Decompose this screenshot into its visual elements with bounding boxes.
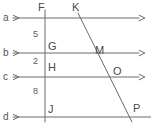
point-label-p: P	[133, 103, 140, 114]
measure-label-fg: 5	[33, 30, 38, 39]
point-label-m: M	[95, 45, 104, 56]
point-label-j: J	[48, 104, 54, 115]
diagram-canvas	[0, 0, 151, 129]
point-label-k: K	[72, 2, 79, 13]
geometry-diagram: a b c d F K G M H O J P 5 2 8	[0, 0, 151, 129]
line-label-c: c	[3, 72, 8, 82]
measure-label-gh: 2	[33, 57, 38, 66]
line-label-b: b	[3, 48, 9, 58]
point-label-g: G	[48, 41, 57, 52]
line-label-a: a	[3, 13, 9, 23]
line-label-d: d	[3, 112, 9, 122]
point-label-h: H	[48, 62, 56, 73]
point-label-f: F	[38, 2, 45, 13]
transversal-slanted	[78, 13, 132, 122]
point-label-o: O	[113, 66, 122, 77]
measure-label-hj: 8	[33, 87, 38, 96]
